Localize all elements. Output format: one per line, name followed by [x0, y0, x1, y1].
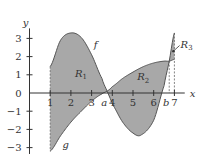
region-label-subscript: 3 [188, 44, 192, 52]
area-chart: 1234567−3−2−10123xy abR1R2R3fg [0, 0, 206, 168]
special-x-label-b: b [163, 97, 169, 108]
x-tick-label: 1 [47, 97, 53, 108]
x-tick-label: 3 [88, 97, 94, 108]
r3-pointer-dot [172, 50, 174, 52]
x-tick-label: 6 [151, 97, 157, 108]
x-tick-label: 7 [171, 97, 177, 108]
y-axis-label: y [22, 17, 29, 28]
region-R1 [50, 33, 107, 151]
y-tick-label: −1 [7, 106, 22, 117]
y-tick-label: 1 [15, 69, 21, 80]
x-axis-label: x [190, 88, 196, 99]
x-tick-label: 4 [109, 97, 115, 108]
curve-label-f: f [93, 39, 100, 50]
y-tick-label: −2 [7, 124, 22, 135]
y-tick-label: −3 [7, 142, 22, 153]
x-tick-label: 5 [130, 97, 136, 108]
y-tick-label: 3 [15, 33, 21, 44]
curve-label-g: g [63, 139, 69, 150]
y-tick-label: 0 [15, 88, 21, 99]
region-label-R3: R3 [180, 39, 193, 53]
x-tick-label: 2 [68, 97, 74, 108]
region-label-subscript: 2 [145, 77, 149, 85]
special-x-label-a: a [101, 97, 107, 108]
region-label-subscript: 1 [83, 73, 87, 81]
y-tick-label: 2 [15, 51, 21, 62]
